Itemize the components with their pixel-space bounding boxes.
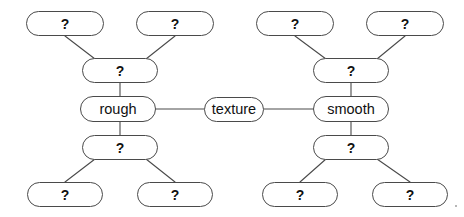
connector-r_up_right-to-r_up2 [377, 36, 405, 59]
connector-r_dn2-to-r_dn_left [300, 159, 326, 182]
node-label-center: texture [212, 102, 256, 117]
node-label-l_up_left: ? [61, 17, 70, 31]
node-label-r_dn_left: ? [296, 188, 305, 202]
node-r_dn_left[interactable]: ? [262, 182, 338, 207]
node-label-r_up2: ? [347, 64, 356, 78]
node-l_up_left[interactable]: ? [26, 11, 104, 36]
node-label-r_up_left: ? [291, 17, 300, 31]
node-r_dn2[interactable]: ? [313, 135, 389, 160]
node-r_dn_right[interactable]: ? [372, 182, 448, 207]
node-l_dn_right[interactable]: ? [137, 182, 213, 207]
node-label-l_dn_left: ? [61, 188, 70, 202]
node-center[interactable]: texture [204, 97, 264, 122]
node-label-l_dn_right: ? [171, 188, 180, 202]
node-l_up_right[interactable]: ? [136, 11, 214, 36]
node-r_up_right[interactable]: ? [366, 11, 444, 36]
connector-l_up_left-to-l_up2 [65, 36, 95, 59]
node-r_up_left[interactable]: ? [256, 11, 334, 36]
node-l_up2[interactable]: ? [82, 58, 158, 83]
connector-r_dn2-to-r_dn_right [377, 159, 410, 182]
node-label-l_up2: ? [116, 64, 125, 78]
node-label-l_mid_up: rough [99, 102, 136, 117]
node-label-l_up_right: ? [171, 17, 180, 31]
node-l_dn_left[interactable]: ? [27, 182, 103, 207]
node-l_dn2[interactable]: ? [82, 135, 158, 160]
connector-l_dn2-to-l_dn_left [65, 159, 95, 182]
node-label-r_mid_up: smooth [327, 102, 375, 117]
node-label-r_dn_right: ? [406, 188, 415, 202]
node-label-r_dn2: ? [347, 141, 356, 155]
connector-r_up_left-to-r_up2 [295, 36, 326, 59]
connector-l_dn2-to-l_dn_right [146, 159, 175, 182]
concept-map-canvas: texturerough??????smooth?????? [0, 0, 464, 217]
scan-speck-0 [455, 205, 457, 207]
node-l_mid_up[interactable]: rough [80, 96, 156, 122]
connector-l_up_right-to-l_up2 [146, 36, 175, 59]
node-label-r_up_right: ? [401, 17, 410, 31]
node-label-l_dn2: ? [116, 141, 125, 155]
node-r_mid_up[interactable]: smooth [313, 96, 389, 122]
node-r_up2[interactable]: ? [313, 58, 389, 83]
